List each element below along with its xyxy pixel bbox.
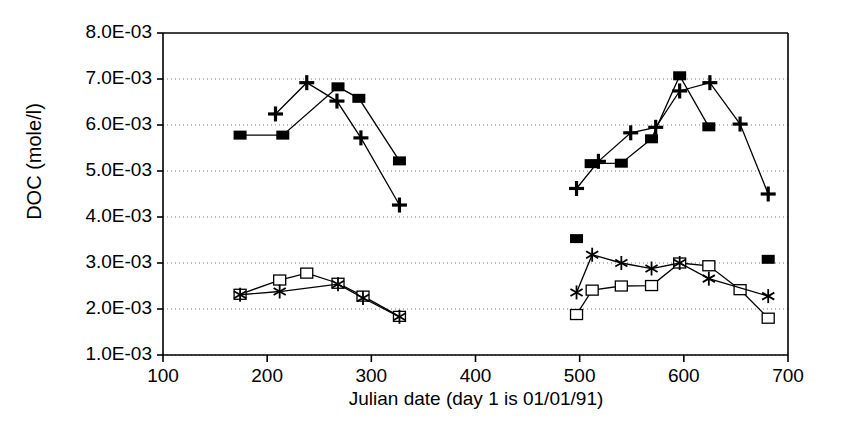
y-tick-label: 2.0E-03 [20,297,152,319]
series-line [240,284,399,317]
series-upper-plus [268,75,407,212]
x-tick-label: 600 [644,365,724,387]
marker-open-square [646,281,658,291]
marker-filled-square [276,131,289,140]
marker-filled-square [352,94,365,103]
marker-open-square [615,281,627,291]
series-upper-filled-square-2 [585,71,716,168]
marker-filled-square [234,131,247,140]
series-line [240,273,399,316]
y-tick-label: 3.0E-03 [20,251,152,273]
y-tick-label: 6.0E-03 [20,113,152,135]
y-tick-label: 5.0E-03 [20,159,152,181]
marker-filled-square [702,122,715,131]
series-line [577,83,769,194]
series-line [591,76,709,164]
marker-filled-square [762,255,775,264]
chart-figure: DOC (mole/l) Julian date (day 1 is 01/01… [0,0,847,432]
marker-filled-square [673,71,686,80]
series-line [240,87,399,161]
marker-filled-square [332,82,345,91]
series-upper-filled-square [234,82,406,165]
x-tick-label: 100 [123,365,203,387]
marker-filled-square [393,156,406,165]
series-lower-open-square [234,268,405,321]
marker-filled-square [570,234,583,243]
marker-open-square [571,310,583,320]
marker-open-square [274,275,286,285]
series-upper-plus-2 [569,75,776,201]
x-axis-title: Julian date (day 1 is 01/01/91) [163,388,789,410]
series-lower-open-square-2 [571,258,775,323]
marker-open-square [301,268,313,278]
x-tick-label: 200 [227,365,307,387]
y-tick-label: 8.0E-03 [20,21,152,43]
marker-filled-square [615,159,628,168]
series-lower-asterisk [234,277,405,324]
x-tick-label: 300 [331,365,411,387]
marker-open-square [586,285,598,295]
y-tick-label: 7.0E-03 [20,67,152,89]
x-tick-label: 700 [748,365,828,387]
marker-open-square [703,261,715,271]
series-isolated-filled-square [570,234,775,264]
y-tick-label: 4.0E-03 [20,205,152,227]
x-tick-label: 500 [540,365,620,387]
x-tick-label: 400 [436,365,516,387]
marker-filled-square [645,134,658,143]
y-tick-label: 1.0E-03 [20,343,152,365]
marker-open-square [762,313,774,323]
